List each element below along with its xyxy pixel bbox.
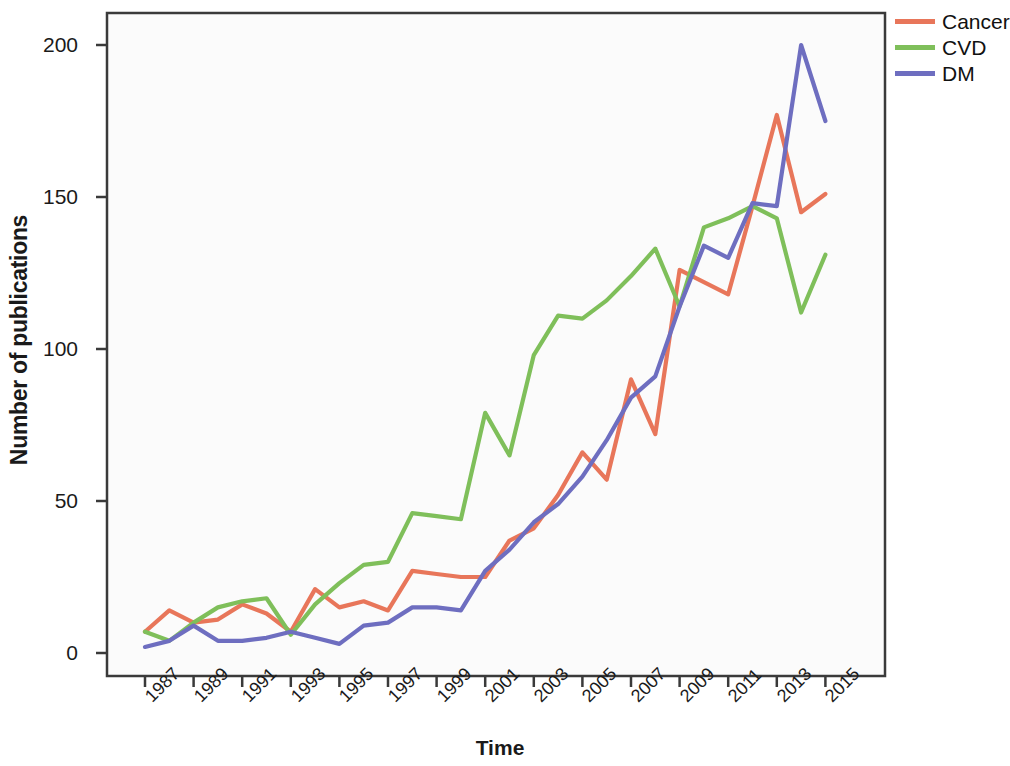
y-tick: 0 bbox=[20, 641, 78, 663]
y-tick-label: 200 bbox=[20, 33, 78, 57]
y-tick: 150 bbox=[20, 185, 78, 207]
x-axis-title: Time bbox=[400, 736, 600, 760]
legend-color-swatch bbox=[895, 19, 935, 24]
legend-color-swatch bbox=[895, 45, 935, 50]
legend-item-cvd[interactable]: CVD bbox=[895, 34, 1000, 60]
y-tick-label: 50 bbox=[20, 489, 78, 513]
y-tick-label: 150 bbox=[20, 185, 78, 209]
legend-item-label: DM bbox=[942, 63, 975, 84]
chart-legend: CancerCVDDM bbox=[895, 8, 1000, 86]
y-tick: 200 bbox=[20, 33, 78, 55]
legend-item-cancer[interactable]: Cancer bbox=[895, 8, 1000, 34]
legend-item-label: Cancer bbox=[942, 11, 1010, 32]
y-tick: 100 bbox=[20, 337, 78, 359]
y-tick-label: 100 bbox=[20, 337, 78, 361]
y-tick-label: 0 bbox=[20, 641, 78, 665]
legend-item-dm[interactable]: DM bbox=[895, 60, 1000, 86]
y-tick: 50 bbox=[20, 489, 78, 511]
legend-item-label: CVD bbox=[942, 37, 986, 58]
legend-color-swatch bbox=[895, 71, 935, 76]
